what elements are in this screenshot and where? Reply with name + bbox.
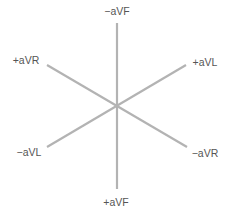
label-pos-aVR: +aVR — [13, 54, 40, 66]
label-neg-aVR: −aVR — [192, 147, 219, 159]
label-pos-aVL: +aVL — [193, 56, 218, 68]
label-pos-aVF: +aVF — [103, 196, 128, 208]
hexaxial-diagram: −aVF +aVR +aVL −aVL −aVR +aVF — [0, 0, 225, 214]
label-neg-aVL: −aVL — [17, 146, 42, 158]
label-neg-aVF: −aVF — [104, 5, 129, 17]
